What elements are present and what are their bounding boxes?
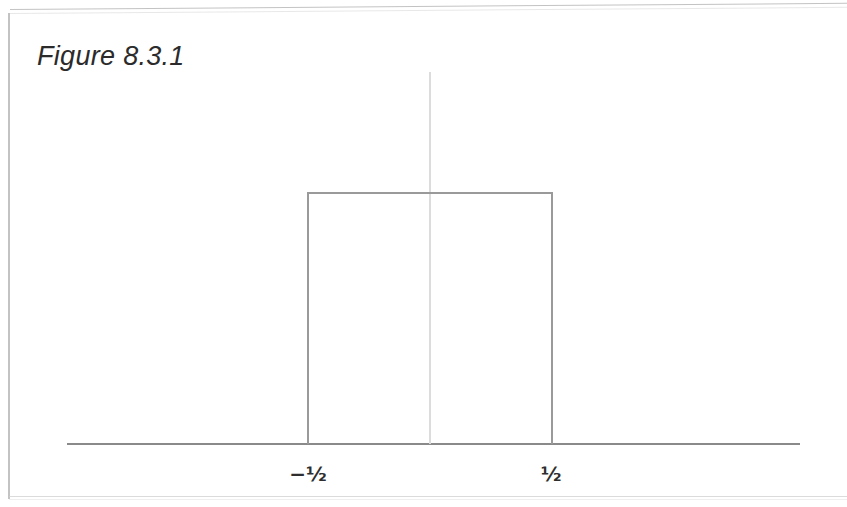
x-tick-label-negative-half: −½ xyxy=(289,462,326,486)
horizontal-axis-line xyxy=(67,443,800,445)
pulse-left-edge xyxy=(307,193,309,444)
figure-page: Figure 8.3.1 −½ ½ xyxy=(0,0,847,507)
vertical-axis-line xyxy=(429,72,431,444)
x-tick-label-positive-half: ½ xyxy=(541,462,562,486)
pulse-right-edge xyxy=(551,193,553,444)
pulse-top-edge xyxy=(307,192,553,194)
plot-area: −½ ½ xyxy=(0,0,847,507)
